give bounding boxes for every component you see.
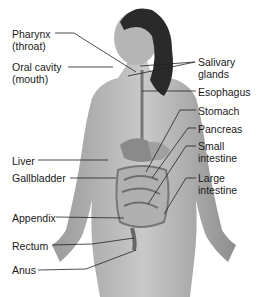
label-oral-cavity: Oral cavity (mouth) [12,61,62,85]
label-pharynx: Pharynx (throat) [12,28,51,52]
label-gallbladder: Gallbladder [12,172,66,184]
label-liver: Liver [12,155,35,167]
label-anus: Anus [12,264,36,276]
label-salivary-glands: Salivary glands [198,56,235,80]
label-appendix: Appendix [12,212,56,224]
label-stomach: Stomach [198,105,239,117]
label-rectum: Rectum [12,240,48,252]
label-pancreas: Pancreas [198,123,242,135]
label-small-intestine: Small intestine [198,140,237,164]
label-large-intestine: Large intestine [198,172,237,196]
label-esophagus: Esophagus [198,86,251,98]
